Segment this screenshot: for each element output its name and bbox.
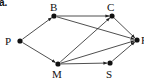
node-B (51, 13, 56, 18)
edge-M-S (61, 63, 107, 64)
edge-P-M (23, 43, 56, 63)
edge-P-B (22, 18, 51, 39)
node-F (134, 37, 139, 42)
node-label-P: P (5, 36, 11, 47)
node-label-F: F (141, 35, 144, 46)
node-C (109, 13, 114, 18)
node-label-M: M (52, 69, 62, 80)
edge-B-F (57, 17, 134, 39)
nodes-group (17, 13, 139, 66)
edge-S-F (112, 42, 134, 61)
edge-C-F (114, 18, 135, 38)
node-P (17, 38, 22, 43)
node-label-B: B (50, 2, 57, 13)
node-label-C: C (107, 2, 114, 13)
node-M (55, 61, 60, 66)
node-label-S: S (106, 69, 112, 80)
directed-graph (0, 0, 144, 82)
node-S (107, 60, 112, 65)
edges-group (22, 16, 134, 64)
